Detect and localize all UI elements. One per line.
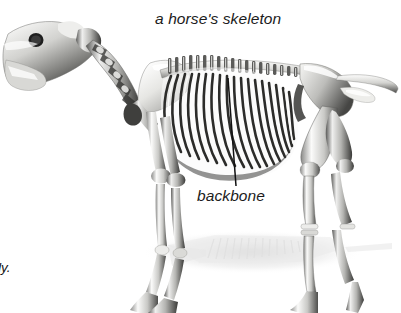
cervical-vertebrae-group (86, 40, 140, 110)
hock-joints (301, 224, 355, 235)
skull-group (3, 21, 101, 90)
pelvis-tail-group (294, 64, 399, 123)
ribcage-group (161, 67, 298, 180)
horse-skeleton-figure: a horse's skeleton backbone ody. ton (0, 0, 401, 313)
carpus-right (167, 173, 186, 187)
hind-legs-group (290, 106, 364, 313)
cannon-bone-front-left (156, 184, 167, 246)
body-text-fragment: ody. (0, 261, 11, 275)
stifle-joint-right (336, 159, 354, 173)
backbone-label: backbone (197, 188, 265, 204)
skeleton-illustration (0, 0, 401, 313)
femur-right (326, 110, 352, 166)
stifle-joint-left (300, 162, 320, 178)
tibia-right (331, 172, 352, 226)
hoof-hind-left (290, 292, 318, 313)
figure-title: a horse's skeleton (155, 11, 281, 27)
hoof-hind-right (346, 282, 364, 313)
pastern-left (146, 254, 166, 296)
tibia-left (303, 176, 316, 226)
